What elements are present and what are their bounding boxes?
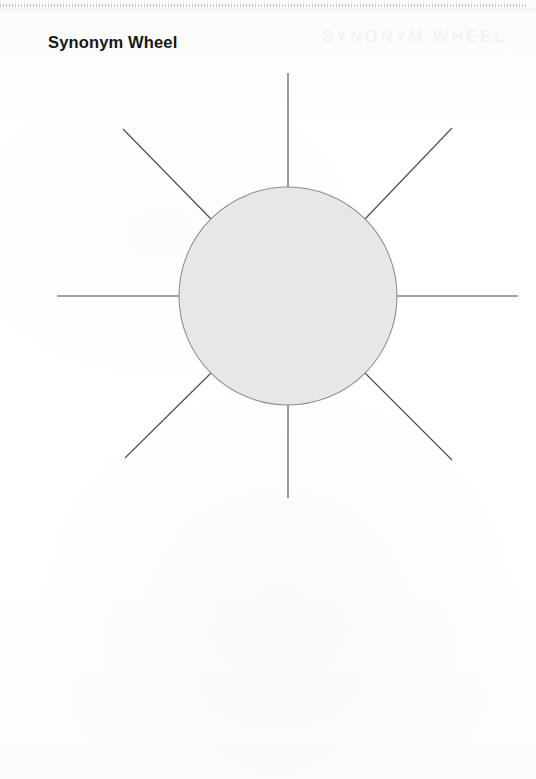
spoke-se: [365, 373, 452, 460]
center-circle[interactable]: [179, 187, 397, 405]
spoke-sw: [125, 373, 211, 458]
spoke-ne: [365, 128, 452, 219]
worksheet-page: SYNONYM WHEEL Synonym Wheel: [0, 0, 536, 779]
synonym-wheel-diagram: [0, 0, 536, 779]
spoke-nw: [123, 129, 211, 219]
